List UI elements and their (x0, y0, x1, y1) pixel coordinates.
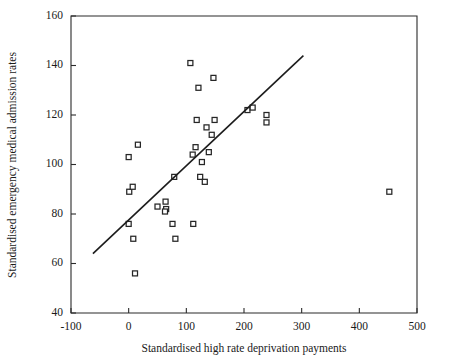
data-point (163, 199, 168, 204)
y-tick-label-160: 160 (46, 9, 64, 21)
data-point (387, 189, 392, 194)
data-point (194, 117, 199, 122)
x-tick-label-300: 300 (293, 320, 311, 332)
x-axis-ticks: -1000100200300400500 (60, 308, 425, 332)
x-tick-label-500: 500 (408, 320, 426, 332)
data-point (209, 132, 214, 137)
x-tick-label-100: 100 (178, 320, 196, 332)
data-point (212, 117, 217, 122)
data-point (131, 236, 136, 241)
data-point (190, 152, 195, 157)
plot-border (71, 16, 417, 313)
data-point (199, 160, 204, 165)
x-tick-label--100: -100 (60, 320, 81, 332)
data-point (264, 113, 269, 118)
y-tick-label-100: 100 (46, 157, 64, 169)
data-point (170, 221, 175, 226)
data-point (193, 145, 198, 150)
data-point-group (126, 61, 392, 276)
data-point (191, 221, 196, 226)
x-tick-label-0: 0 (126, 320, 132, 332)
x-tick-label-200: 200 (235, 320, 253, 332)
data-point (155, 204, 160, 209)
data-point (130, 184, 135, 189)
data-point (127, 189, 132, 194)
y-axis-title: Standardised emergency medical admission… (6, 52, 19, 278)
scatter-chart-figure: 406080100120140160 -1000100200300400500 … (0, 0, 456, 364)
data-point (196, 85, 201, 90)
chart-canvas: 406080100120140160 -1000100200300400500 … (0, 0, 456, 364)
data-point (264, 120, 269, 125)
y-tick-label-140: 140 (46, 58, 64, 70)
data-point (126, 155, 131, 160)
data-point (211, 75, 216, 80)
x-axis-title: Standardised high rate deprivation payme… (141, 342, 347, 355)
x-tick-label-400: 400 (351, 320, 369, 332)
data-point (188, 61, 193, 66)
y-tick-label-40: 40 (52, 306, 64, 318)
data-point (204, 125, 209, 130)
data-point (198, 174, 203, 179)
data-point (202, 179, 207, 184)
y-tick-label-80: 80 (52, 207, 64, 219)
y-tick-label-120: 120 (46, 108, 64, 120)
axes-frame (71, 16, 417, 313)
data-point (173, 236, 178, 241)
data-point (135, 142, 140, 147)
data-point (133, 271, 138, 276)
data-point (206, 150, 211, 155)
data-point (163, 209, 168, 214)
y-tick-label-60: 60 (52, 256, 64, 268)
